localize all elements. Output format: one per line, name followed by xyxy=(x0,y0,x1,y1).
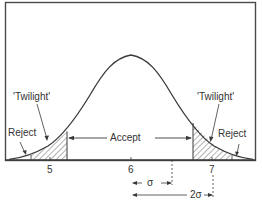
tick-label-7: 7 xyxy=(209,165,215,175)
distribution-diagram xyxy=(0,0,262,209)
sigma-label: σ xyxy=(146,178,154,188)
tick-label-5: 5 xyxy=(47,165,53,175)
accept-label: Accept xyxy=(110,133,141,143)
tick-label-6: 6 xyxy=(128,165,134,175)
reject-label-right: Reject xyxy=(218,129,246,139)
twilight-label-left: 'Twilight' xyxy=(13,92,50,102)
two-sigma-label: 2σ xyxy=(189,190,203,200)
normal-curve xyxy=(9,55,253,159)
twilight-label-right: 'Twilight' xyxy=(197,92,234,102)
reject-label-left: Reject xyxy=(8,128,36,138)
